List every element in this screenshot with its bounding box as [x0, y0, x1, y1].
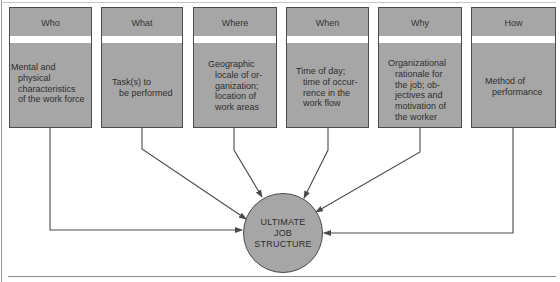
box-stripe [102, 36, 182, 43]
body-line: rationale for [388, 69, 446, 80]
box-title: What [102, 18, 182, 28]
arrow-where [234, 128, 262, 197]
body-line: jectives and [388, 90, 446, 101]
body-line: the worker [388, 112, 446, 123]
ultimate-job-structure-node: ULTIMATE JOB STRUCTURE [243, 193, 323, 273]
body-line: Organizational [388, 58, 446, 69]
center-label-line: JOB [254, 228, 311, 239]
center-label: ULTIMATE JOB STRUCTURE [254, 217, 311, 250]
body-line: locale of or- [208, 70, 262, 81]
box-body: Method of performance [485, 76, 543, 98]
box-stripe [379, 36, 461, 43]
body-line: motivation of [388, 101, 446, 112]
body-line: work flow [296, 98, 358, 109]
body-line: characteristics [11, 84, 85, 95]
box-why: Why Organizational rationale for the job… [378, 7, 462, 128]
body-line: Method of [485, 76, 543, 87]
box-what: What Task(s) to be performed [101, 7, 183, 128]
box-stripe [10, 36, 91, 43]
box-title: How [472, 18, 555, 28]
body-line: be performed [112, 88, 173, 99]
box-title: Why [379, 18, 461, 28]
body-line: the job; ob- [388, 80, 446, 91]
arrow-why [316, 128, 420, 212]
body-line: Time of day; [296, 66, 358, 77]
arrow-who [50, 128, 242, 230]
box-stripe [194, 36, 276, 43]
body-line: work areas [208, 102, 262, 113]
box-body: Geographic locale of or- ganization; loc… [208, 59, 262, 113]
box-title: Who [10, 18, 91, 28]
box-body: Organizational rationale for the job; ob… [388, 58, 446, 123]
box-title: Where [194, 18, 276, 28]
box-body: Time of day; time of occur- rence in the… [296, 66, 358, 109]
center-label-line: STRUCTURE [254, 239, 311, 250]
box-where: Where Geographic locale of or- ganizatio… [193, 7, 277, 128]
box-when: When Time of day; time of occur- rence i… [286, 7, 369, 128]
body-line: location of [208, 91, 262, 102]
bottom-rule [8, 276, 556, 277]
body-line: Mental and [11, 62, 85, 73]
box-stripe [472, 36, 555, 43]
box-stripe [287, 36, 368, 43]
body-line: physical [11, 73, 85, 84]
box-who: Who Mental and physical characteristics … [9, 7, 92, 128]
body-line: Task(s) to [112, 77, 173, 88]
box-body: Mental and physical characteristics of t… [11, 62, 85, 105]
body-line: rence in the [296, 88, 358, 99]
box-title: When [287, 18, 368, 28]
body-line: performance [485, 87, 543, 98]
arrow-when [304, 128, 328, 198]
box-body: Task(s) to be performed [112, 77, 173, 99]
center-label-line: ULTIMATE [254, 217, 311, 228]
body-line: time of occur- [296, 77, 358, 88]
arrow-how [324, 128, 513, 233]
arrow-what [142, 128, 246, 219]
body-line: of the work force [11, 94, 85, 105]
body-line: Geographic [208, 59, 262, 70]
body-line: ganization; [208, 81, 262, 92]
box-how: How Method of performance [471, 7, 556, 128]
